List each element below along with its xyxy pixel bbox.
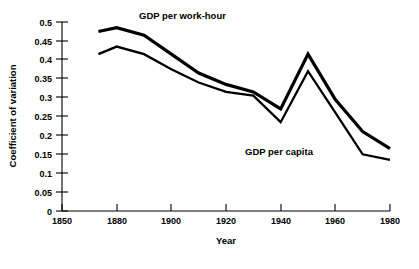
- y-tick-label: 0.45: [34, 37, 52, 47]
- y-tick-label: 0.5: [39, 18, 52, 28]
- x-axis-tick-labels: 1850 1880 1900 1920 1940 1960 1980: [52, 216, 400, 226]
- x-tick-label: 1940: [271, 216, 291, 226]
- y-tick-label: 0.1: [39, 169, 52, 179]
- y-tick-label: 0.05: [34, 188, 52, 198]
- series-annotation-gdp-per-capita: GDP per capita: [245, 146, 314, 157]
- chart-canvas: 0.5 0.45 0.4 0.35 0.3 0.25 0.2 0.15 0.1 …: [0, 0, 419, 269]
- x-tick-label: 1920: [216, 216, 236, 226]
- series-annotation-gdp-per-work-hour: GDP per work-hour: [139, 10, 226, 21]
- x-tick-label: 1850: [52, 216, 72, 226]
- y-tick-label: 0: [47, 207, 52, 217]
- x-tick-label: 1980: [380, 216, 400, 226]
- x-tick-label: 1900: [161, 216, 181, 226]
- x-axis-title: Year: [216, 235, 236, 246]
- x-axis-ticks: [62, 204, 390, 211]
- line-chart: 0.5 0.45 0.4 0.35 0.3 0.25 0.2 0.15 0.1 …: [0, 0, 419, 269]
- y-tick-label: 0.15: [34, 150, 52, 160]
- x-tick-label: 1960: [325, 216, 345, 226]
- series-line-gdp-per-capita: [98, 47, 390, 160]
- y-tick-label: 0.25: [34, 112, 52, 122]
- y-tick-label: 0.4: [39, 55, 52, 65]
- x-tick-label: 1880: [107, 216, 127, 226]
- y-tick-label: 0.35: [34, 74, 52, 84]
- y-tick-label: 0.2: [39, 131, 52, 141]
- y-axis-title: Coefficient of variation: [7, 64, 18, 167]
- y-axis-tick-labels: 0.5 0.45 0.4 0.35 0.3 0.25 0.2 0.15 0.1 …: [34, 18, 52, 217]
- y-tick-label: 0.3: [39, 93, 52, 103]
